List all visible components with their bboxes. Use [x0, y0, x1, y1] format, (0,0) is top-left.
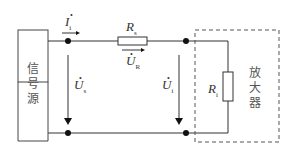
node-top-right: [183, 38, 189, 44]
label-ri: Ri: [208, 82, 218, 99]
arrow-ur-icon: [141, 48, 145, 52]
label-rs: Rs: [126, 20, 137, 37]
arrow-ui-icon: [175, 118, 183, 125]
label-ur: UR: [126, 54, 140, 71]
source-label: 信 号 源: [26, 62, 40, 107]
arrow-us-icon: [64, 118, 72, 125]
node-bottom-right: [183, 130, 189, 136]
node-bottom-left: [65, 130, 71, 136]
resistor-ri: [223, 72, 233, 101]
dot-ur: •: [130, 50, 133, 59]
amplifier-label: 放 大 器: [248, 66, 262, 111]
arrow-ii-icon: [76, 31, 80, 35]
dot-ii: •: [70, 11, 73, 20]
dot-us: •: [79, 74, 82, 83]
resistor-rs: [118, 37, 147, 45]
dot-ui: •: [167, 74, 170, 83]
circuit-diagram: 信 号 源 放 大 器 Ii Rs UR Us Ui Ri • • • •: [0, 0, 296, 155]
node-top-left: [65, 38, 71, 44]
